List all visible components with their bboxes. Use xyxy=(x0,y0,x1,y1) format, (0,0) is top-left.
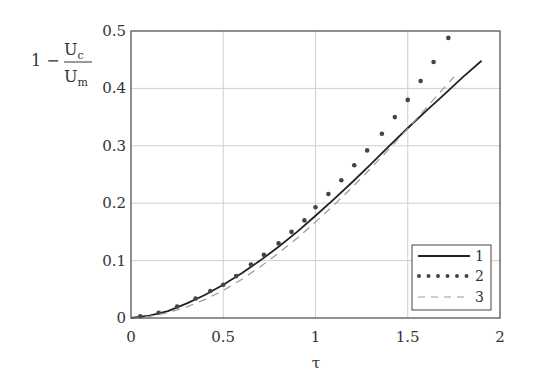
data-point xyxy=(365,148,370,153)
data-point xyxy=(249,262,254,267)
svg-text:Um: Um xyxy=(64,67,88,89)
legend-label-1: 1 xyxy=(475,248,484,264)
x-tick-label: 0.5 xyxy=(211,328,235,346)
x-tick-label: 0 xyxy=(126,328,136,346)
y-tick-label: 0.1 xyxy=(102,252,126,270)
data-point xyxy=(175,304,180,309)
data-point xyxy=(393,115,398,120)
x-tick-label: 2 xyxy=(495,328,505,346)
y-tick-label: 0.4 xyxy=(102,79,126,97)
data-point xyxy=(380,131,385,136)
data-point xyxy=(313,205,318,210)
y-tick-label: 0 xyxy=(116,309,126,327)
data-point xyxy=(352,163,357,168)
legend-label-2: 2 xyxy=(475,268,484,284)
data-point xyxy=(326,192,331,197)
y-tick-label: 0.5 xyxy=(102,22,126,40)
data-point xyxy=(405,98,410,103)
data-point xyxy=(208,289,213,294)
data-point xyxy=(276,241,281,246)
data-point xyxy=(234,274,239,279)
data-point xyxy=(339,178,344,183)
line-chart: 00.511.52 00.10.20.30.40.5 τ 1 − Uc Um 1… xyxy=(0,0,535,388)
data-point xyxy=(221,282,226,287)
data-point xyxy=(446,36,451,41)
y-tick-label: 0.2 xyxy=(102,194,126,212)
data-point xyxy=(302,218,307,223)
y-tick-label: 0.3 xyxy=(102,137,126,155)
x-axis-ticks: 00.511.52 xyxy=(126,328,505,346)
y-axis-ticks: 00.10.20.30.40.5 xyxy=(102,22,126,327)
y-axis-label: 1 − Uc Um xyxy=(31,40,92,89)
legend: 1 2 3 xyxy=(412,245,491,310)
data-point xyxy=(289,230,294,235)
data-point xyxy=(262,253,267,258)
series-line-3 xyxy=(131,77,454,318)
svg-text:1 −: 1 − xyxy=(31,51,60,70)
legend-label-3: 3 xyxy=(475,289,484,305)
x-tick-label: 1 xyxy=(311,328,321,346)
x-tick-label: 1.5 xyxy=(396,328,420,346)
data-point xyxy=(418,79,423,84)
data-point xyxy=(431,60,436,65)
x-axis-label: τ xyxy=(312,354,320,372)
svg-text:Uc: Uc xyxy=(64,40,84,62)
data-point xyxy=(193,296,198,301)
